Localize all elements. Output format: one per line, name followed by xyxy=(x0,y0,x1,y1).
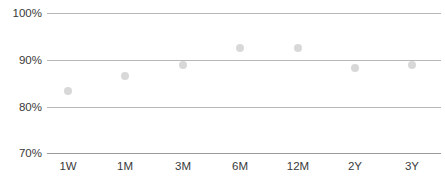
gridline-80 xyxy=(47,107,441,108)
gridline-90 xyxy=(47,60,441,61)
ytick-label-80: 80% xyxy=(0,102,42,113)
xtick-label-6m: 6M xyxy=(232,160,248,172)
data-point-1w xyxy=(64,87,72,95)
ytick-label-100: 100% xyxy=(0,8,42,19)
ytick-label-90: 90% xyxy=(0,55,42,66)
data-point-1m xyxy=(121,72,129,80)
xtick-label-3m: 3M xyxy=(175,160,191,172)
scatter-chart: 100% 90% 80% 70% 1W 1M 3M 6M 12M 2Y 3Y xyxy=(0,0,445,185)
data-point-2y xyxy=(351,64,359,72)
data-point-3m xyxy=(179,61,187,69)
xtick-label-2y: 2Y xyxy=(348,160,362,172)
gridline-100 xyxy=(47,13,441,14)
data-point-6m xyxy=(236,44,244,52)
plot-area: 100% 90% 80% 70% 1W 1M 3M 6M 12M 2Y 3Y xyxy=(0,0,445,185)
xtick-label-12m: 12M xyxy=(287,160,309,172)
ytick-label-70: 70% xyxy=(0,148,42,159)
gridline-70-axis xyxy=(47,153,441,154)
data-point-12m xyxy=(294,44,302,52)
xtick-label-3y: 3Y xyxy=(405,160,419,172)
clipped-footer-text xyxy=(4,182,124,185)
xtick-label-1m: 1M xyxy=(117,160,133,172)
data-point-3y xyxy=(408,61,416,69)
xtick-label-1w: 1W xyxy=(59,160,76,172)
